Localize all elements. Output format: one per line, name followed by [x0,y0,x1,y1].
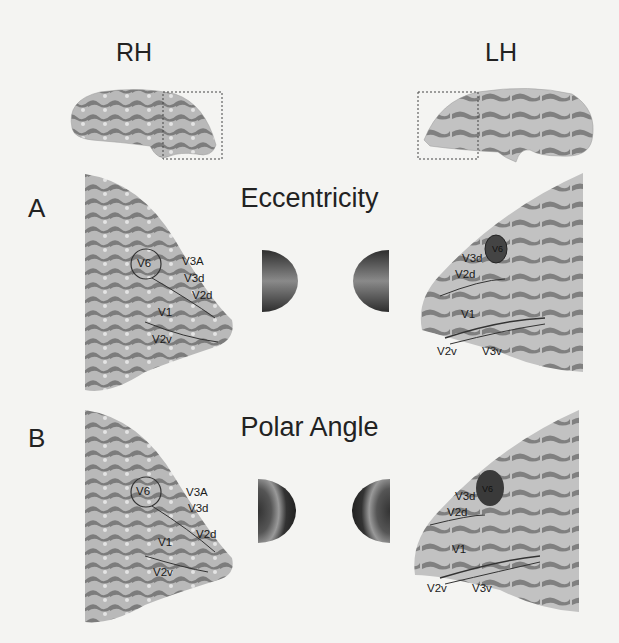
area-label: V2d [196,528,216,540]
panel-a-title: Eccentricity [0,183,619,214]
area-label: V1 [452,543,466,555]
area-label: V1 [158,536,172,548]
rh-inflated-brain [0,0,619,643]
area-label: V3d [455,490,475,502]
panel-b-title: Polar Angle [0,412,619,443]
area-label: V1 [461,308,475,320]
area-label: V3A [182,255,204,267]
area-label: V2v [427,582,447,594]
area-label: V2d [447,506,467,518]
area-label: V6 [136,485,150,497]
area-label: V2d [192,289,212,301]
area-label: V3v [482,345,502,357]
area-label: V1 [158,306,172,318]
eccentricity-stimulus-right [262,250,298,312]
area-label: V3d [184,272,204,284]
area-label: V2v [152,333,172,345]
area-label: V3d [188,502,208,514]
area-label: V3v [472,582,492,594]
polar-angle-stimulus-right [258,479,296,543]
area-label: V6 [482,484,493,494]
area-label: V6 [137,257,151,269]
eccentricity-stimulus-left [353,250,389,312]
polar-angle-stimulus-left [352,479,390,543]
area-label: V3A [186,486,208,498]
area-label: V2v [153,566,173,578]
area-label: V2v [437,345,457,357]
area-label: V3d [462,252,482,264]
area-label: V6 [492,244,503,254]
area-label: V2d [455,268,475,280]
